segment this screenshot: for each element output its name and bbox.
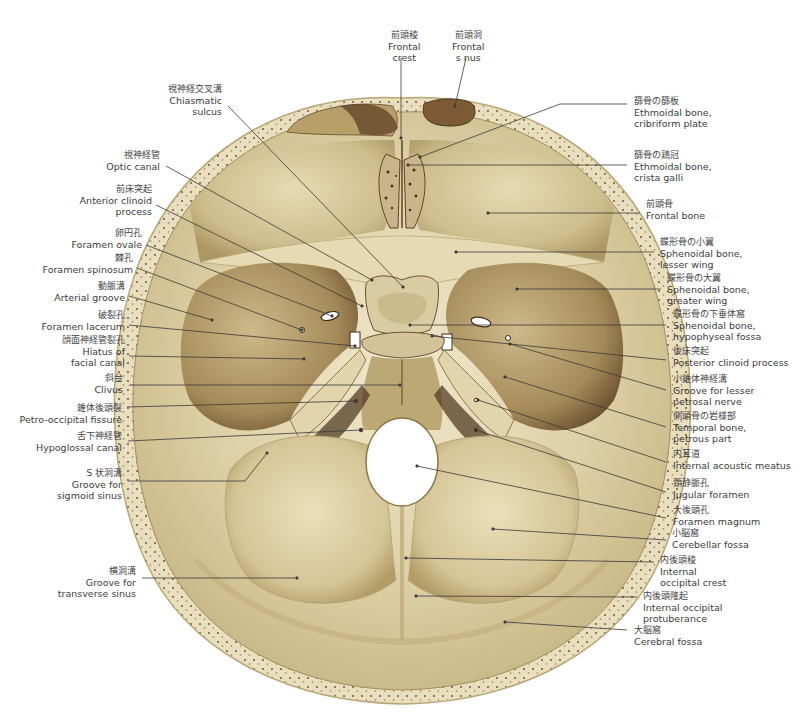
label-clivus: 斜台Clivus bbox=[94, 373, 123, 395]
label-english: lesser wing bbox=[660, 259, 743, 270]
label-english: Foramen ovale bbox=[71, 239, 142, 250]
label-japanese: 大脳窩 bbox=[634, 625, 702, 636]
label-japanese: 前頭稜 bbox=[388, 30, 421, 41]
label-japanese: 小脳窩 bbox=[672, 528, 749, 539]
label-english: Sphenoidal bone, bbox=[660, 248, 743, 259]
label-english: cribriform plate bbox=[634, 118, 712, 129]
label-japanese: 大後頭孔 bbox=[673, 505, 760, 516]
label-japanese: 内後頭隆起 bbox=[643, 591, 722, 602]
label-english: crista galli bbox=[634, 172, 712, 183]
label-english: Petro-occipital fissure bbox=[20, 414, 122, 425]
label-english: Foramen spinosum bbox=[43, 264, 133, 275]
label-english: Internal acoustic meatus bbox=[673, 460, 791, 471]
label-japanese: 錐体後頭裂 bbox=[20, 403, 122, 414]
label-japanese: 篩骨の鶏冠 bbox=[634, 150, 712, 161]
label-english: Foramen magnum bbox=[673, 516, 760, 527]
label-english: Anterior clinoid bbox=[80, 195, 152, 206]
label-jugular-foramen: 頸静脈孔Jugular foramen bbox=[673, 478, 749, 500]
label-ethmoidal-crista-galli: 篩骨の鶏冠Ethmoidal bone,crista galli bbox=[634, 150, 712, 183]
label-groove-lesser-petrosal-nerve: 小錐体神経溝Groove for lesserpetrosal nerve bbox=[673, 374, 754, 407]
label-japanese: 蝶形骨の大翼 bbox=[667, 273, 750, 284]
label-english: Hypoglossal canal bbox=[36, 442, 122, 453]
label-japanese: 内耳道 bbox=[673, 449, 791, 460]
label-english: Internal occipital bbox=[643, 602, 722, 613]
label-japanese: 動脈溝 bbox=[54, 281, 125, 292]
label-japanese: 卵円孔 bbox=[71, 228, 142, 239]
label-japanese: 小錐体神経溝 bbox=[673, 374, 754, 385]
label-japanese: 前頭洞 bbox=[452, 30, 485, 41]
label-groove-sigmoid-sinus: S 状洞溝Groove forsigmoid sinus bbox=[57, 468, 122, 501]
label-english: process bbox=[80, 206, 152, 217]
foramen-spinosum-right bbox=[506, 336, 511, 341]
label-english: hypophyseal fossa bbox=[673, 331, 761, 342]
label-foramen-magnum: 大後頭孔Foramen magnum bbox=[673, 505, 760, 527]
label-japanese: 内後頭稜 bbox=[660, 555, 726, 566]
label-english: Arterial groove bbox=[54, 292, 125, 303]
label-japanese: 頸静脈孔 bbox=[673, 478, 749, 489]
label-japanese: 視神経管 bbox=[106, 150, 160, 161]
label-temporal-petrous-part: 側頭骨の岩様部Temporal bone,petrous part bbox=[673, 411, 746, 444]
label-english: Temporal bone, bbox=[673, 422, 746, 433]
label-hypoglossal-canal: 舌下神経管Hypoglossal canal bbox=[36, 431, 122, 453]
label-english: Frontal bbox=[452, 41, 485, 52]
label-japanese: 視神経交叉溝 bbox=[168, 84, 222, 95]
label-english: Sphenoidal bone, bbox=[673, 320, 761, 331]
label-sphenoidal-hypophyseal-fossa: 蝶形骨の下垂体窩Sphenoidal bone,hypophyseal foss… bbox=[673, 309, 761, 342]
label-english: Groove for lesser bbox=[673, 385, 754, 396]
label-frontal-crest: 前頭稜Frontalcrest bbox=[388, 30, 421, 63]
label-japanese: 前床突起 bbox=[80, 184, 152, 195]
label-japanese: 篩骨の篩板 bbox=[634, 96, 712, 107]
frontal-sinus-right bbox=[423, 99, 475, 126]
label-english: Posterior clinoid process bbox=[673, 357, 789, 368]
label-english: petrous part bbox=[673, 433, 746, 444]
label-internal-occipital-protuberance: 内後頭隆起Internal occipitalprotuberance bbox=[643, 591, 722, 624]
label-english: Frontal bbox=[388, 41, 421, 52]
label-english: Cerebellar fossa bbox=[672, 539, 749, 550]
label-foramen-lacerum: 破裂孔Foramen lacerum bbox=[41, 310, 125, 332]
label-arterial-groove: 動脈溝Arterial groove bbox=[54, 281, 125, 303]
label-japanese: 後床突起 bbox=[673, 346, 789, 357]
label-japanese: 斜台 bbox=[94, 373, 123, 384]
label-sphenoidal-lesser-wing: 蝶形骨の小翼Sphenoidal bone,lesser wing bbox=[660, 237, 743, 270]
label-english: transverse sinus bbox=[58, 588, 136, 599]
label-english: Optic canal bbox=[106, 161, 160, 172]
label-petro-occipital-fissure: 錐体後頭裂Petro-occipital fissure bbox=[20, 403, 122, 425]
label-japanese: 前頭骨 bbox=[646, 199, 705, 210]
label-groove-transverse-sinus: 横洞溝Groove fortransverse sinus bbox=[58, 566, 136, 599]
label-cerebral-fossa: 大脳窩Cerebral fossa bbox=[634, 625, 702, 647]
label-internal-acoustic-meatus: 内耳道Internal acoustic meatus bbox=[673, 449, 791, 471]
label-cerebellar-fossa: 小脳窩Cerebellar fossa bbox=[672, 528, 749, 550]
label-japanese: 破裂孔 bbox=[41, 310, 125, 321]
label-internal-occipital-crest: 内後頭稜Internaloccipital crest bbox=[660, 555, 726, 588]
label-frontal-sinus: 前頭洞Frontals nus bbox=[452, 30, 485, 63]
label-english: Groove for bbox=[58, 577, 136, 588]
label-hiatus-facial-canal: 顔面神経管裂孔Hiatus offacial canal bbox=[62, 335, 125, 368]
label-english: Ethmoidal bone, bbox=[634, 161, 712, 172]
label-japanese: 舌下神経管 bbox=[36, 431, 122, 442]
label-english: occipital crest bbox=[660, 577, 726, 588]
label-english: Cerebral fossa bbox=[634, 636, 702, 647]
label-japanese: 側頭骨の岩様部 bbox=[673, 411, 746, 422]
label-frontal-bone: 前頭骨Frontal bone bbox=[646, 199, 705, 221]
label-english: facial canal bbox=[62, 357, 125, 368]
label-ethmoidal-cribriform-plate: 篩骨の篩板Ethmoidal bone,cribriform plate bbox=[634, 96, 712, 129]
foramen-magnum bbox=[366, 418, 438, 506]
label-english: Jugular foramen bbox=[673, 489, 749, 500]
label-english: Internal bbox=[660, 566, 726, 577]
label-foramen-spinosum: 棘孔Foramen spinosum bbox=[43, 253, 133, 275]
label-english: Sphenoidal bone, bbox=[667, 284, 750, 295]
label-japanese: 蝶形骨の小翼 bbox=[660, 237, 743, 248]
label-optic-canal: 視神経管Optic canal bbox=[106, 150, 160, 172]
label-english: Frontal bone bbox=[646, 210, 705, 221]
label-english: Foramen lacerum bbox=[41, 321, 125, 332]
label-anterior-clinoid-process: 前床突起Anterior clinoidprocess bbox=[80, 184, 152, 217]
label-japanese: 顔面神経管裂孔 bbox=[62, 335, 125, 346]
label-english: sigmoid sinus bbox=[57, 490, 122, 501]
label-english: crest bbox=[388, 52, 421, 63]
label-english: Ethmoidal bone, bbox=[634, 107, 712, 118]
label-foramen-ovale: 卵円孔Foramen ovale bbox=[71, 228, 142, 250]
label-japanese: 蝶形骨の下垂体窩 bbox=[673, 309, 761, 320]
label-english: greater wing bbox=[667, 295, 750, 306]
label-english: Clivus bbox=[94, 384, 123, 395]
label-chiasmatic-sulcus: 視神経交叉溝Chiasmaticsulcus bbox=[168, 84, 222, 117]
